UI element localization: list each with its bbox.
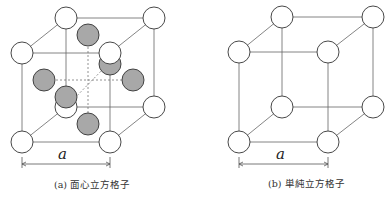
corner-atom — [143, 96, 165, 118]
face-atom-front — [55, 86, 77, 108]
corner-atom — [362, 96, 384, 118]
corner-atom — [99, 42, 121, 64]
corner-atom — [143, 7, 165, 29]
face-atom-left — [33, 69, 55, 91]
corner-atom — [362, 6, 384, 28]
corner-atom — [99, 131, 121, 153]
face-atom-top — [77, 24, 99, 46]
corner-atom — [11, 131, 33, 153]
corner-atom — [271, 96, 293, 118]
lattice-diagrams — [0, 0, 386, 198]
sc-lattice — [239, 17, 373, 142]
sc-caption: (b) 単純立方格子 — [268, 176, 345, 190]
corner-atom — [228, 41, 250, 63]
corner-atom — [228, 131, 250, 153]
fcc-caption: (a) 面心立方格子 — [54, 177, 130, 191]
sc-lattice-constant-label: a — [276, 145, 285, 163]
corner-atom — [271, 6, 293, 28]
fcc-lattice-constant-label: a — [58, 145, 67, 163]
corner-atom — [317, 41, 339, 63]
corner-atom — [11, 42, 33, 64]
sc-atoms — [228, 6, 384, 153]
face-atom-right — [122, 69, 144, 91]
face-atom-bottom — [77, 113, 99, 135]
corner-atom — [317, 131, 339, 153]
corner-atom — [55, 7, 77, 29]
